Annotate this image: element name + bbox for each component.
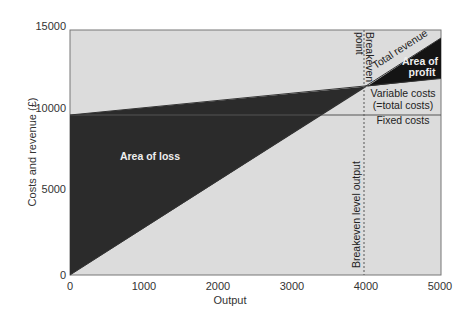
x-tick-1000: 1000 [132,280,156,292]
variable-costs-label-2: (=total costs) [373,99,433,111]
x-tick-3000: 3000 [280,280,304,292]
area-of-profit-label-2: profit [409,66,436,78]
variable-costs-label-1: Variable costs [370,87,435,99]
breakeven-point-label-2: point [354,32,366,55]
area-of-loss-label: Area of loss [120,150,180,162]
x-tick-0: 0 [67,280,73,292]
breakeven-level-output-label: Breakeven level output [350,161,362,268]
breakeven-chart: 0 5000 10000 15000 0 1000 2000 3000 4000… [0,0,471,322]
y-tick-5000: 5000 [42,183,66,195]
x-tick-2000: 2000 [206,280,230,292]
y-tick-0: 0 [60,269,66,281]
y-tick-15000: 15000 [35,20,66,32]
x-tick-5000: 5000 [428,280,452,292]
y-tick-10000: 10000 [35,102,66,114]
y-axis-label: Costs and revenue (£) [26,98,38,207]
x-tick-4000: 4000 [354,280,378,292]
x-axis-label: Output [213,294,246,306]
fixed-costs-label: Fixed costs [376,114,429,126]
